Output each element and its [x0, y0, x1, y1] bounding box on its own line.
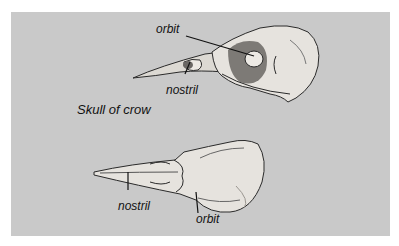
label-nostril-top: nostril [118, 199, 150, 213]
side-view-skull [133, 26, 319, 102]
label-orbit-side: orbit [156, 22, 179, 36]
label-orbit-top: orbit [196, 212, 219, 226]
skull-illustrations [0, 0, 399, 246]
label-nostril-side: nostril [166, 83, 198, 97]
figure-caption: Skull of crow [77, 102, 151, 117]
